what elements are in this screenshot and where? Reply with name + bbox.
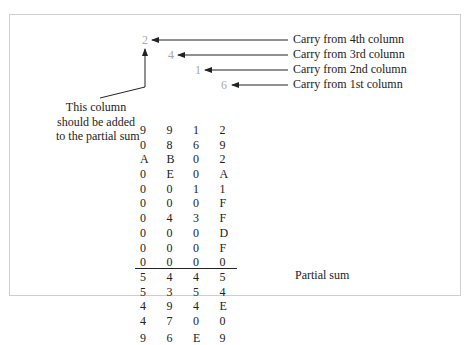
- sum-digit: 6: [167, 331, 194, 345]
- digit: 0: [193, 196, 220, 211]
- digit: 1: [193, 123, 220, 138]
- partial-sum-row: 96E9: [140, 331, 246, 345]
- digit: 1: [193, 182, 220, 197]
- digit: 6: [193, 138, 220, 153]
- digit: 2: [220, 123, 247, 138]
- digit: 5: [140, 285, 167, 300]
- digit: 4: [140, 299, 167, 314]
- digit: 9: [220, 138, 247, 153]
- carry-label-1st: Carry from 1st column: [293, 77, 403, 92]
- digit: 0: [140, 138, 167, 153]
- digit: 0: [193, 152, 220, 167]
- digit: F: [220, 196, 247, 211]
- addend-row: 000F: [140, 241, 246, 256]
- digit: 4: [193, 270, 220, 285]
- digit: E: [167, 167, 194, 182]
- digit: 0: [167, 226, 194, 241]
- sum-digit: E: [193, 331, 220, 345]
- note-line: This column: [56, 100, 136, 115]
- digit: 0: [140, 196, 167, 211]
- sum-digit: 9: [220, 331, 247, 345]
- addend-row: 000F: [140, 196, 246, 211]
- digit: 9: [140, 123, 167, 138]
- digit: 0: [140, 241, 167, 256]
- digit: 3: [193, 211, 220, 226]
- digit: 0: [167, 182, 194, 197]
- partial-sum-label: Partial sum: [295, 268, 349, 283]
- digit: 0: [193, 226, 220, 241]
- digit: F: [220, 211, 247, 226]
- digit: 0: [193, 167, 220, 182]
- digit: 9: [167, 299, 194, 314]
- carry-label-3rd: Carry from 3rd column: [293, 47, 405, 62]
- digit: 5: [193, 285, 220, 300]
- note-line: to the partial sum: [56, 129, 136, 144]
- digit: 0: [193, 314, 220, 329]
- addend-row: 9912: [140, 123, 246, 138]
- digit: 5: [220, 270, 247, 285]
- digit: D: [220, 226, 247, 241]
- addend-row: 000D: [140, 226, 246, 241]
- addend-row: 0869: [140, 138, 246, 153]
- sum-digit: 9: [140, 331, 167, 345]
- digit: 4: [193, 299, 220, 314]
- addend-row: 0011: [140, 182, 246, 197]
- digit: 2: [220, 152, 247, 167]
- addend-row: 5354: [140, 285, 246, 300]
- digit: 4: [167, 270, 194, 285]
- note-line: should be added: [56, 115, 136, 130]
- digit: 0: [193, 241, 220, 256]
- digit: 5: [140, 270, 167, 285]
- digit: 4: [220, 285, 247, 300]
- carry-digit-3rd: 4: [168, 48, 174, 63]
- digit: 9: [167, 123, 194, 138]
- carry-digit-2nd: 1: [195, 63, 201, 78]
- sum-rule: [135, 268, 237, 269]
- column-note: This column should be added to the parti…: [56, 100, 136, 144]
- addend-row: 0E0A: [140, 167, 246, 182]
- addend-row: 4700: [140, 314, 246, 329]
- digit: 0: [167, 196, 194, 211]
- digit: F: [220, 241, 247, 256]
- addend-row: AB02: [140, 152, 246, 167]
- digit: A: [140, 152, 167, 167]
- digit: 4: [140, 314, 167, 329]
- digit: 0: [140, 167, 167, 182]
- addend-row: 5445: [140, 270, 246, 285]
- digit: 8: [167, 138, 194, 153]
- carry-label-2nd: Carry from 2nd column: [293, 62, 407, 77]
- digit: E: [220, 299, 247, 314]
- digit: 0: [140, 182, 167, 197]
- digit: 0: [220, 314, 247, 329]
- carry-digit-1st: 6: [221, 78, 227, 93]
- digit: 4: [167, 211, 194, 226]
- hex-addends-grid: 9912 0869 AB02 0E0A 0011 000F 043F 000D …: [140, 123, 246, 345]
- addend-row: 494E: [140, 299, 246, 314]
- carry-label-4th: Carry from 4th column: [293, 32, 404, 47]
- digit: 0: [140, 226, 167, 241]
- digit: 0: [167, 241, 194, 256]
- digit: A: [220, 167, 247, 182]
- digit: B: [167, 152, 194, 167]
- digit: 3: [167, 285, 194, 300]
- note-pointer-arrow: [100, 49, 145, 98]
- digit: 7: [167, 314, 194, 329]
- digit: 1: [220, 182, 247, 197]
- digit: 0: [140, 211, 167, 226]
- addend-row: 043F: [140, 211, 246, 226]
- carry-digit-4th: 2: [142, 33, 148, 48]
